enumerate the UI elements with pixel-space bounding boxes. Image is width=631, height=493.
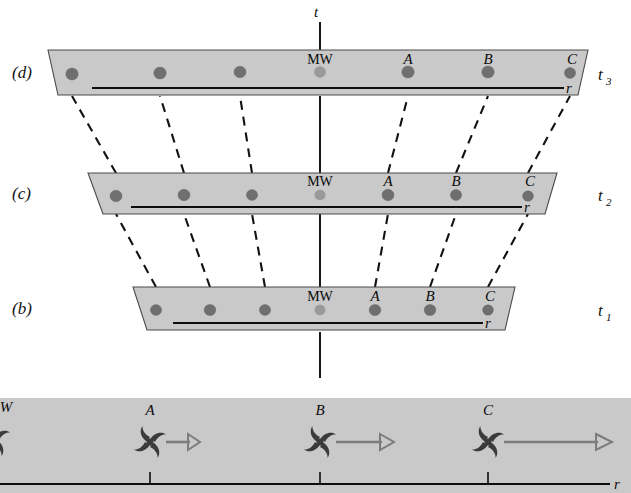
panel-d-time-label-sub: 3	[605, 75, 612, 87]
galaxy-dot[interactable]	[369, 304, 381, 315]
worldline-c-d-3	[240, 96, 252, 173]
panel-b-label: (b)	[12, 299, 32, 318]
galaxy-dot[interactable]	[482, 66, 494, 78]
time-axis-label: t	[314, 4, 319, 20]
galaxy-label-mw: MW	[307, 52, 333, 67]
galaxy-dot[interactable]	[402, 66, 414, 78]
galaxy-dot[interactable]	[483, 305, 494, 315]
galaxy-label-c: C	[485, 288, 496, 304]
panel-b-distance-axis-label: r	[485, 315, 491, 331]
galaxy-dot[interactable]	[204, 304, 216, 315]
galaxy-dot[interactable]	[150, 305, 161, 316]
worldline-c-d-1	[72, 96, 116, 173]
worldline-c-d-B	[456, 96, 488, 173]
galaxy-dot[interactable]	[246, 190, 257, 201]
galaxy-label-b: B	[425, 288, 434, 304]
galaxy-label-mw: MW	[307, 289, 333, 304]
panel-b-time-label: t 1	[598, 301, 612, 323]
galaxy-dot-milky-way[interactable]	[314, 67, 325, 78]
galaxy-dot-milky-way[interactable]	[315, 190, 325, 200]
galaxy-label-a: A	[369, 288, 380, 304]
bottom-distance-axis-label: r	[614, 476, 620, 492]
galaxy-dot[interactable]	[178, 189, 190, 201]
galaxy-dot[interactable]	[154, 67, 166, 79]
panel-c-label: (c)	[12, 184, 31, 203]
worldline-c-d-C	[528, 96, 570, 173]
worldline-b-c-3	[252, 214, 265, 287]
panel-c-time-label-sub: 2	[606, 196, 612, 208]
bottom-panel: W A B C	[0, 398, 631, 493]
panel-d: (d) MW A B C r t 3	[12, 50, 612, 96]
worldline-c-d-A	[388, 96, 408, 173]
panel-c-time-label: t 2	[598, 186, 612, 208]
spacetime-diagram-svg: t (d)	[0, 0, 631, 493]
galaxy-dot[interactable]	[424, 304, 436, 315]
galaxy-label-b: B	[451, 173, 460, 189]
galaxy-label-a: A	[382, 173, 393, 189]
galaxy-dot[interactable]	[66, 68, 78, 80]
worldline-b-c-1	[116, 214, 156, 287]
panel-b-time-label-base: t	[598, 301, 604, 320]
panel-c-distance-axis-label: r	[524, 199, 530, 215]
galaxy-dot[interactable]	[234, 66, 246, 78]
worldline-b-c-C	[488, 214, 528, 287]
galaxy-label-a: A	[402, 51, 413, 67]
figure-canvas: t (d)	[0, 0, 631, 493]
galaxy-label-c: C	[525, 173, 536, 189]
galaxy-label-b: B	[315, 402, 324, 418]
worldline-b-c-B	[430, 214, 456, 287]
galaxy-dot[interactable]	[110, 190, 122, 202]
galaxy-dot-milky-way[interactable]	[315, 305, 325, 315]
panel-d-label: (d)	[12, 63, 32, 82]
galaxy-label-c: C	[483, 402, 494, 418]
worldline-b-c-2	[184, 214, 210, 287]
panel-c-time-label-base: t	[598, 186, 604, 205]
galaxy-label-mw-clipped: W	[0, 399, 14, 415]
galaxy-dot[interactable]	[450, 190, 461, 201]
galaxy-dot[interactable]	[259, 305, 270, 316]
galaxy-label-b: B	[483, 51, 492, 67]
worldline-b-c-A	[375, 214, 388, 287]
galaxy-label-mw: MW	[307, 174, 333, 189]
galaxy-dot[interactable]	[564, 68, 575, 79]
panel-b: (b) MW A B C r t 1	[12, 287, 612, 331]
galaxy-dot[interactable]	[382, 189, 394, 201]
galaxy-label-a: A	[144, 402, 155, 418]
worldline-c-d-2	[160, 96, 184, 173]
panel-c: (c) MW A B C r t 2	[12, 173, 612, 215]
panel-d-distance-axis-label: r	[566, 80, 572, 96]
panel-d-time-label-base: t	[598, 65, 604, 84]
panel-b-time-label-sub: 1	[606, 311, 612, 323]
panel-d-time-label: t 3	[598, 65, 612, 87]
galaxy-label-c: C	[567, 51, 578, 67]
